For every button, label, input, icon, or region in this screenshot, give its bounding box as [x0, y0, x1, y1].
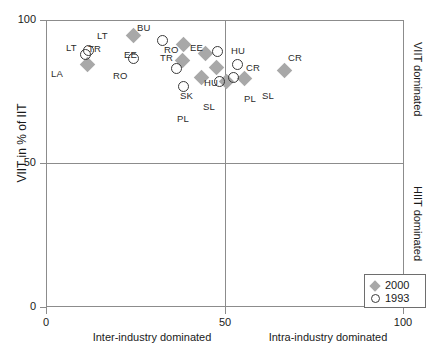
x-tick-label-100: 100: [383, 316, 423, 328]
y-tick-label-100: 100: [2, 13, 36, 25]
legend-item-2000[interactable]: 2000: [369, 278, 421, 291]
circle-marker-icon: [369, 292, 381, 304]
x-tick-100: [403, 307, 404, 314]
x-tick-0: [46, 307, 47, 314]
x-tick-50: [225, 307, 226, 314]
point-label-ee-9: EE: [190, 42, 203, 53]
point-label-tr-3: TR: [88, 43, 101, 54]
y-axis-title: VIIT in % of IIT: [15, 63, 29, 223]
point-label-sl-12: SL: [203, 101, 215, 112]
legend-label-1993: 1993: [385, 292, 409, 304]
point-label-hu-14: HU: [231, 45, 245, 56]
point-label-cr-16: CR: [246, 62, 260, 73]
legend-item-1993[interactable]: 1993: [369, 291, 421, 304]
legend-label-2000: 2000: [385, 279, 409, 291]
legend: 2000 1993: [364, 274, 426, 308]
side-caption-viit-dominated: VIIT dominated: [412, 42, 424, 116]
diamond-marker-icon: [369, 279, 381, 291]
x-caption-intra-industry: Intra-industry dominated: [238, 331, 418, 343]
point-label-sl-17: SL: [262, 90, 274, 101]
point-label-bu-4: BU: [137, 22, 151, 33]
point-label-ee-5: EE: [124, 49, 137, 60]
point-label-lt-0: LT: [97, 30, 108, 41]
point-label-la-2: LA: [51, 68, 63, 79]
quadrant-line-horizontal: [46, 163, 404, 164]
point-label-sk-11: SK: [180, 90, 193, 101]
x-tick-label-0: 0: [26, 316, 66, 328]
point-label-pl-13: PL: [177, 113, 189, 124]
point-label-pl-15: PL: [244, 93, 256, 104]
point-label-cr-18: CR: [288, 52, 302, 63]
x-tick-label-50: 50: [205, 316, 245, 328]
side-caption-hiit-dominated: HIIT dominated: [412, 186, 424, 261]
point-label-hu-10: HU: [204, 77, 218, 88]
x-caption-inter-industry: Inter-industry dominated: [62, 331, 242, 343]
point-label-ro-6: RO: [113, 70, 128, 81]
point-label-tr-8: TR: [160, 52, 173, 63]
y-tick-label-0: 0: [2, 300, 36, 312]
data-point-1993-HU: [232, 59, 243, 70]
point-label-lt-1: LT: [66, 42, 77, 53]
chart-page: 100 50 0 0 50 100 VIIT in % of IIT Inter…: [0, 0, 444, 359]
